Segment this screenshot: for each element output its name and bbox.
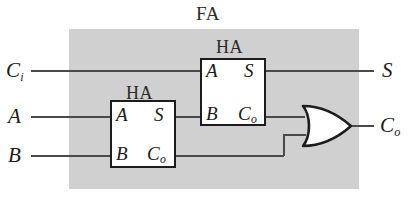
or-gate	[300, 104, 356, 152]
wire-operand-b	[31, 155, 110, 157]
wire-ha-upper-carry-to-or	[265, 116, 305, 118]
pin-label: B	[116, 143, 128, 164]
label-subscript: i	[20, 70, 23, 84]
half-adder-lower-pin-co: Co	[147, 144, 166, 163]
pin-subscript: o	[251, 113, 257, 126]
wire-ha-lower-carry-riser	[283, 134, 285, 156]
pin-label: S	[154, 104, 164, 125]
half-adder-upper-title: HA	[216, 37, 243, 58]
wire-carry-in	[31, 70, 200, 72]
pin-label: A	[206, 60, 218, 81]
label-text: C	[380, 113, 394, 137]
label-operand-b: B	[8, 145, 21, 166]
label-text: B	[8, 143, 21, 167]
label-text: A	[8, 104, 21, 128]
half-adder-lower-pin-s: S	[154, 105, 164, 124]
label-carry-in: Ci	[6, 60, 23, 81]
label-text: C	[6, 58, 20, 82]
half-adder-upper-pin-a: A	[206, 61, 218, 80]
pin-label: A	[116, 104, 128, 125]
wire-sum-out	[265, 70, 374, 72]
full-adder-diagram: FA HA A S B Co HA A S	[0, 0, 410, 200]
wire-operand-a	[31, 116, 110, 118]
label-subscript: o	[394, 125, 400, 139]
pin-label: C	[147, 143, 160, 164]
half-adder-upper-pin-b: B	[206, 104, 218, 123]
label-text: S	[382, 58, 393, 82]
pin-subscript: o	[160, 153, 166, 166]
label-sum-out: S	[382, 60, 393, 81]
wire-ha-lower-carry-run	[176, 155, 284, 157]
half-adder-lower-pin-a: A	[116, 105, 128, 124]
pin-label: C	[238, 103, 251, 124]
pin-label: B	[206, 103, 218, 124]
half-adder-lower-pin-b: B	[116, 144, 128, 163]
half-adder-upper-pin-s: S	[244, 61, 254, 80]
half-adder-upper-pin-co: Co	[238, 104, 257, 123]
pin-label: S	[244, 60, 254, 81]
label-carry-out: Co	[380, 115, 400, 136]
label-operand-a: A	[8, 106, 21, 127]
wire-ha-lower-sum-to-ha-upper-b	[176, 116, 200, 118]
fa-title: FA	[196, 3, 220, 25]
